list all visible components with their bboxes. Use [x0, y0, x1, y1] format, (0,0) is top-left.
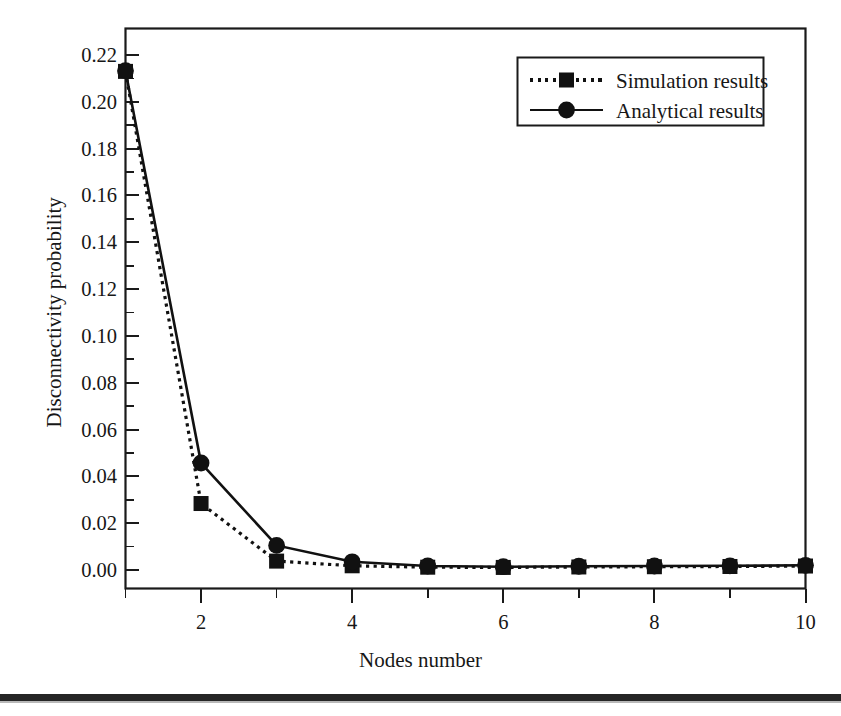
marker-square — [269, 554, 284, 569]
y-axis-title: Disconnectivity probability — [42, 197, 67, 427]
marker-circle — [495, 558, 512, 575]
marker-circle — [193, 455, 210, 472]
x-tick-label: 10 — [766, 612, 841, 633]
x-tick-label: 2 — [161, 612, 241, 633]
marker-circle — [117, 62, 134, 79]
x-tick-label: 4 — [312, 612, 392, 633]
legend-marker-circle — [558, 102, 575, 119]
marker-circle — [797, 557, 814, 574]
y-tick-label: 0.22 — [55, 45, 117, 66]
legend-item-label-analytical: Analytical results — [616, 99, 764, 124]
marker-circle — [344, 553, 361, 570]
x-axis-minor-ticks — [126, 589, 730, 598]
x-axis-title: Nodes number — [0, 648, 841, 673]
marker-circle — [268, 537, 285, 554]
y-tick-label: 0.18 — [55, 139, 117, 160]
page-horizontal-rule — [0, 694, 841, 701]
marker-circle — [646, 558, 663, 575]
y-tick-label: 0.02 — [55, 513, 117, 534]
x-tick-label: 6 — [463, 612, 543, 633]
page-horizontal-rule-shadow — [0, 701, 841, 703]
legend-marker-square — [559, 73, 574, 88]
legend-item-label-simulation: Simulation results — [616, 69, 768, 94]
marker-circle — [722, 557, 739, 574]
x-tick-label: 8 — [614, 612, 694, 633]
y-tick-label: 0.04 — [55, 466, 117, 487]
y-tick-label: 0.00 — [55, 560, 117, 581]
x-axis-major-ticks — [201, 589, 805, 603]
figure-root: 0.000.020.040.060.080.100.120.140.160.18… — [0, 0, 841, 716]
marker-square — [194, 496, 209, 511]
marker-circle — [570, 558, 587, 575]
y-tick-label: 0.20 — [55, 92, 117, 113]
marker-circle — [419, 558, 436, 575]
